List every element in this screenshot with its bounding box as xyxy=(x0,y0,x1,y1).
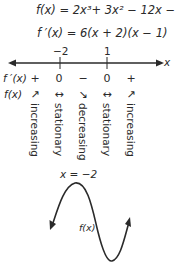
behavior-label: stationary xyxy=(101,103,113,156)
left-arrowhead-icon xyxy=(8,60,16,67)
increasing-arrow-icon: ↗ xyxy=(124,88,138,101)
decreasing-arrow-icon: ↘ xyxy=(76,88,90,101)
behavior-label: increasing xyxy=(29,103,41,157)
sign-cell: + xyxy=(124,72,138,85)
curve-label: f(x) xyxy=(79,222,95,233)
sign-cell: 0 xyxy=(52,72,66,85)
behavior-label: increasing xyxy=(125,103,137,157)
function-row-label: f(x) xyxy=(4,88,22,100)
sign-cell: 0 xyxy=(100,72,114,85)
right-arrowhead-icon xyxy=(156,60,164,67)
stationary-arrow-icon: ↔ xyxy=(100,88,114,101)
sign-cell: + xyxy=(28,72,42,85)
maximum-label: x = −2 xyxy=(60,168,97,180)
sign-cell: − xyxy=(76,72,90,85)
increasing-arrow-icon: ↗ xyxy=(28,88,42,101)
axis-label-x: x xyxy=(164,56,170,68)
behavior-label: decreasing xyxy=(77,103,89,161)
behavior-label: stationary xyxy=(53,103,65,156)
number-line xyxy=(8,57,164,69)
stationary-arrow-icon: ↔ xyxy=(52,88,66,101)
derivative-row-label: f ′(x) xyxy=(3,72,27,84)
curve-right-arrow-icon xyxy=(125,217,131,227)
